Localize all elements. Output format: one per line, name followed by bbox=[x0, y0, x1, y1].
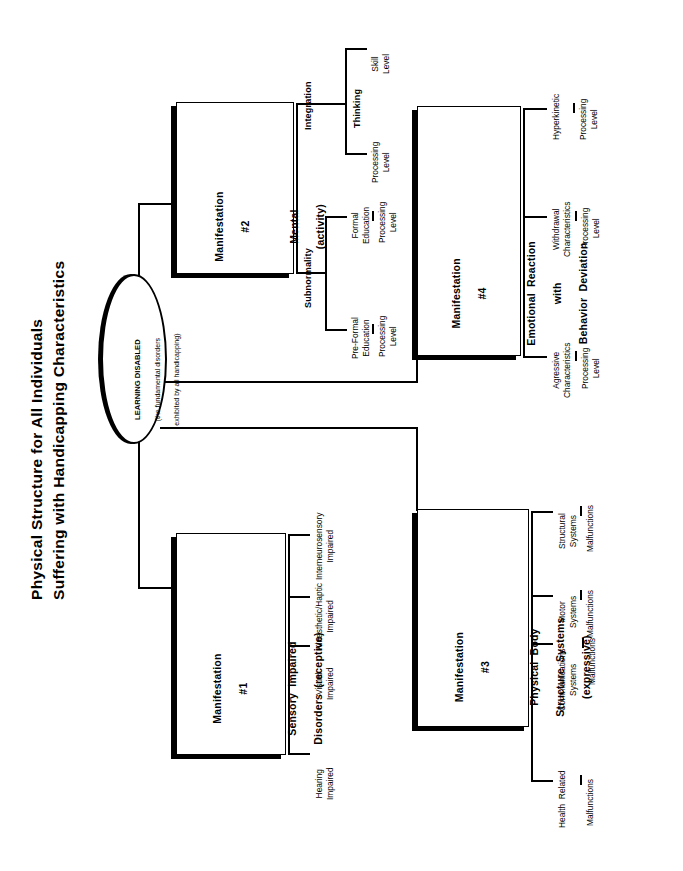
m2-thinking-processing-text: ProcessingLevel bbox=[370, 142, 391, 183]
title-line-2: Suffering with Handicapping Characterist… bbox=[50, 261, 67, 600]
m3-communications-label: CommunicationsSystems bbox=[557, 649, 578, 711]
m2-subnormality-label: Subnormality bbox=[303, 248, 314, 308]
m4-agressive-processing-label: ProcessingLevel bbox=[580, 348, 601, 389]
m3-motor-malfunctions-text: Malfunctions bbox=[585, 590, 595, 637]
m2-skill-level-text: SkillLevel bbox=[370, 54, 391, 74]
m1-branch-spine bbox=[288, 534, 290, 754]
m2-thinking-proc-line bbox=[345, 153, 367, 155]
m3-health-line bbox=[531, 780, 553, 782]
m2-formal-stub bbox=[372, 211, 374, 221]
m1-hearing-text: HearingImpaired bbox=[314, 767, 335, 800]
m4-hyperkinetic-label: Hyperkinetic bbox=[551, 94, 562, 140]
m2-thinking-text: Thinking bbox=[352, 89, 362, 128]
m1-visual-text: VisualImpaired bbox=[314, 667, 335, 700]
m3-motor-malfunctions-label: Malfunctions bbox=[585, 590, 596, 637]
m3-hash: #3 bbox=[479, 661, 491, 673]
m4-agressive-stub bbox=[575, 351, 577, 361]
manifestation-4-label: Manifestation #4 Emotional Reaction with… bbox=[437, 241, 590, 352]
root-sub-1: (the fundamental disorders bbox=[154, 338, 161, 421]
m1-interneurosensory-label: InterneurosensoryImpaired bbox=[314, 512, 335, 580]
m4-agressive-text: AgressiveCharacteristics bbox=[551, 343, 572, 398]
m2-preformal-line bbox=[325, 329, 347, 331]
m3-structural-malfunctions-label: Malfunctions bbox=[585, 505, 596, 552]
manifestation-1-label: Manifestation #1 Sensory Impaired Disord… bbox=[198, 632, 325, 751]
root-sub-2: exhibited by all handicapping) bbox=[173, 334, 180, 426]
m2-preformal-stub bbox=[372, 324, 374, 334]
m4-branch-spine bbox=[523, 108, 525, 357]
m4-name-1: Emotional Reaction bbox=[525, 241, 537, 346]
m3-motor-label: MotorSystems bbox=[557, 596, 578, 628]
m4-withdrawal-processing-label: ProcessingLevel bbox=[580, 208, 601, 249]
m4-withdrawal-processing-text: ProcessingLevel bbox=[580, 208, 601, 249]
m2-hash: #2 bbox=[239, 221, 251, 233]
connector-root-to-m3 bbox=[160, 427, 418, 429]
m2-preformal-education-text: Pre-FormalEducation bbox=[350, 317, 371, 359]
m3-health-stub bbox=[580, 775, 582, 785]
m4-hyperkinetic-line bbox=[523, 108, 547, 110]
m2-integration-to-thinking bbox=[310, 103, 346, 105]
m1-kinesthetic-line bbox=[288, 596, 310, 598]
m2-name-1: Mental bbox=[288, 209, 300, 243]
m4-number: Manifestation bbox=[450, 258, 462, 328]
m2-branch-spine bbox=[296, 103, 298, 273]
title-line-1: Physical Structure for All Individuals bbox=[28, 319, 45, 600]
m2-preformal-processing-text: ProcessingLevel bbox=[377, 316, 398, 357]
m4-hyperkinetic-stub bbox=[573, 103, 575, 113]
m3-communications-stub bbox=[582, 638, 584, 648]
root-label: LEARNING DISABLED bbox=[133, 339, 142, 420]
m1-hearing-label: HearingImpaired bbox=[314, 767, 335, 800]
m3-motor-text: MotorSystems bbox=[557, 596, 578, 628]
m4-withdrawal-line bbox=[523, 216, 547, 218]
page-title: Physical Structure for All IndividualsSu… bbox=[26, 261, 71, 600]
m3-number: Manifestation bbox=[453, 632, 465, 702]
m3-communications-line bbox=[531, 643, 553, 645]
m3-structural-stub bbox=[580, 506, 582, 516]
m2-formal-education-text: FormalEducation bbox=[350, 207, 371, 244]
m2-thinking-skill-line bbox=[345, 48, 367, 50]
m1-kinesthetic-label: Kinesthetic/HapticImpaired bbox=[314, 583, 335, 650]
m3-communications-malfunctions-text: Malfunctions bbox=[587, 638, 597, 685]
m4-agressive-processing-text: ProcessingLevel bbox=[580, 348, 601, 389]
m1-interneurosensory-line bbox=[288, 534, 310, 536]
m4-hyperkinetic-text: Hyperkinetic bbox=[551, 94, 561, 140]
m4-withdrawal-text: WithdrawalCharacteristics bbox=[551, 202, 572, 257]
m3-name-1: Physical Body bbox=[528, 628, 540, 706]
m4-hash: #4 bbox=[476, 287, 488, 299]
m2-thinking-processing-label: ProcessingLevel bbox=[370, 142, 391, 183]
connector-root-to-m4-riser bbox=[416, 356, 418, 383]
m3-health-text: Health Related bbox=[557, 770, 567, 828]
m2-subnormality-text: Subnormality bbox=[303, 248, 313, 308]
m3-structural-text: StructuralSystems bbox=[557, 513, 578, 549]
m1-kinesthetic-text: Kinesthetic/HapticImpaired bbox=[314, 583, 335, 650]
m2-preformal-education-label: Pre-FormalEducation bbox=[350, 317, 371, 359]
m4-withdrawal-stub bbox=[575, 211, 577, 221]
m1-hash: #1 bbox=[237, 683, 249, 695]
m3-health-malfunctions-label: Malfunctions bbox=[585, 779, 596, 826]
m3-structural-label: StructuralSystems bbox=[557, 513, 578, 549]
m3-motor-line bbox=[531, 595, 553, 597]
m1-hearing-line bbox=[288, 753, 310, 755]
m1-number: Manifestation bbox=[211, 653, 223, 723]
m2-formal-education-label: FormalEducation bbox=[350, 207, 371, 244]
m4-agressive-line bbox=[523, 356, 547, 358]
m2-formal-line bbox=[325, 216, 347, 218]
root-oval-label: LEARNING DISABLED (the fundamental disor… bbox=[123, 334, 182, 430]
m4-agressive-label: AgressiveCharacteristics bbox=[551, 343, 572, 398]
m4-name-3: Behavior Deviation bbox=[577, 242, 589, 344]
m1-visual-label: VisualImpaired bbox=[314, 667, 335, 700]
m3-structural-malfunctions-text: Malfunctions bbox=[585, 505, 595, 552]
m2-skill-level-label: SkillLevel bbox=[370, 54, 391, 74]
connector-root-to-m3-riser bbox=[416, 427, 418, 511]
m4-hyperkinetic-processing-text: ProcessingLevel bbox=[578, 99, 599, 140]
m3-health-label: Health Related bbox=[557, 770, 568, 828]
m2-subnormality-spine bbox=[325, 216, 327, 330]
m2-thinking-spine bbox=[345, 48, 347, 154]
connector-root-to-m4 bbox=[160, 381, 418, 383]
m4-withdrawal-label: WithdrawalCharacteristics bbox=[551, 202, 572, 257]
m3-motor-stub bbox=[580, 590, 582, 600]
m3-health-malfunctions-text: Malfunctions bbox=[585, 779, 595, 826]
m3-branch-spine bbox=[531, 511, 533, 781]
m4-hyperkinetic-processing-label: ProcessingLevel bbox=[578, 99, 599, 140]
m2-formal-processing-text: ProcessingLevel bbox=[377, 202, 398, 243]
m2-preformal-processing-label: ProcessingLevel bbox=[377, 316, 398, 357]
